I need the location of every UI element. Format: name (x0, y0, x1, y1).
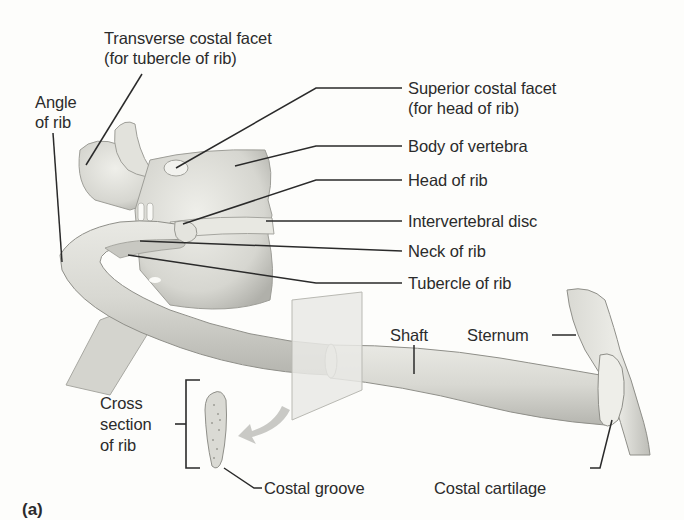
panel-label: (a) (22, 500, 43, 520)
label-line: of rib (100, 435, 152, 456)
label-line: Superior costal facet (408, 78, 556, 98)
label-tubercle-of-rib: Tubercle of rib (408, 273, 511, 293)
label-cross-section-of-rib: Cross section of rib (100, 393, 152, 456)
leader-costal-groove (224, 468, 262, 488)
section-plane (292, 292, 362, 420)
label-costal-groove: Costal groove (264, 478, 365, 498)
label-line: of rib (35, 112, 77, 132)
label-intervertebral-disc: Intervertebral disc (408, 211, 537, 231)
label-neck-of-rib: Neck of rib (408, 241, 486, 261)
label-transverse-costal-facet: Transverse costal facet (for tubercle of… (104, 28, 272, 68)
label-superior-costal-facet: Superior costal facet (for head of rib) (408, 78, 556, 118)
label-shaft: Shaft (390, 325, 428, 345)
rib-cross-section (205, 392, 227, 468)
cross-section-bracket (175, 380, 200, 468)
label-costal-cartilage: Costal cartilage (434, 478, 546, 498)
label-line: Transverse costal facet (104, 28, 272, 48)
label-line: (for head of rib) (408, 98, 556, 118)
label-line: Cross (100, 393, 152, 414)
label-line: (for tubercle of rib) (104, 48, 272, 68)
section-arrow (238, 406, 290, 444)
label-angle-of-rib: Angle of rib (35, 92, 77, 132)
label-sternum: Sternum (467, 325, 529, 345)
leader-angle-of-rib (53, 133, 62, 262)
label-head-of-rib: Head of rib (408, 170, 488, 190)
leader-costal-cartilage (590, 420, 612, 468)
label-line: section (100, 414, 152, 435)
label-body-of-vertebra: Body of vertebra (408, 136, 527, 156)
label-line: Angle (35, 92, 77, 112)
